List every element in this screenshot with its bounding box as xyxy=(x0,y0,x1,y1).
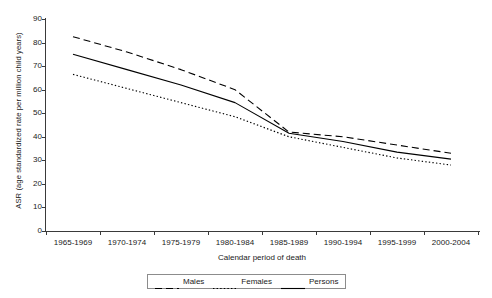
legend-entry-persons[interactable]: Persons xyxy=(281,277,338,286)
legend-entry-males[interactable]: Males xyxy=(155,277,204,286)
chart-legend: MalesFemalesPersons xyxy=(147,274,346,289)
y-tick-label: 90 xyxy=(33,15,42,23)
x-tick-mark xyxy=(316,231,317,235)
x-tick-mark xyxy=(478,231,479,235)
x-tick-label: 1995-1999 xyxy=(378,238,416,247)
x-tick-label: 1970-1974 xyxy=(108,238,146,247)
y-tick-label: 0 xyxy=(38,227,42,235)
y-tick-label: 60 xyxy=(33,86,42,94)
y-tick-label: 80 xyxy=(33,39,42,47)
legend-label: Females xyxy=(241,277,272,286)
y-tick-label: 20 xyxy=(33,180,42,188)
x-tick-label: 2000-2004 xyxy=(432,238,470,247)
y-tick-label: 70 xyxy=(33,62,42,70)
x-tick-mark xyxy=(208,231,209,235)
x-axis-title: Calendar period of death xyxy=(46,253,478,262)
x-tick-mark xyxy=(424,231,425,235)
x-tick-mark xyxy=(154,231,155,235)
legend-swatch-dashed-icon xyxy=(155,278,179,285)
series-lines xyxy=(46,19,478,231)
x-tick-mark xyxy=(46,231,47,235)
plot-area: 0102030405060708090 1965-19691970-197419… xyxy=(46,19,478,231)
chart-figure: ASR (age standardized rate per million c… xyxy=(0,0,492,298)
legend-swatch-solid-icon xyxy=(281,278,305,285)
series-line-males xyxy=(73,37,451,154)
legend-swatch-dotted-icon xyxy=(213,278,237,285)
x-tick-mark xyxy=(262,231,263,235)
legend-label: Persons xyxy=(309,277,338,286)
y-tick-label: 50 xyxy=(33,109,42,117)
y-tick-label: 40 xyxy=(33,133,42,141)
y-axis-title: ASR (age standardized rate per million c… xyxy=(14,6,23,236)
legend-label: Males xyxy=(183,277,204,286)
x-tick-label: 1965-1969 xyxy=(54,238,92,247)
legend-entry-females[interactable]: Females xyxy=(213,277,272,286)
x-tick-label: 1975-1979 xyxy=(162,238,200,247)
y-tick-label: 30 xyxy=(33,156,42,164)
x-tick-label: 1990-1994 xyxy=(324,238,362,247)
x-tick-label: 1980-1984 xyxy=(216,238,254,247)
y-tick-label: 10 xyxy=(33,203,42,211)
x-tick-label: 1985-1989 xyxy=(270,238,308,247)
series-line-persons xyxy=(73,54,451,159)
x-tick-mark xyxy=(370,231,371,235)
x-tick-mark xyxy=(100,231,101,235)
